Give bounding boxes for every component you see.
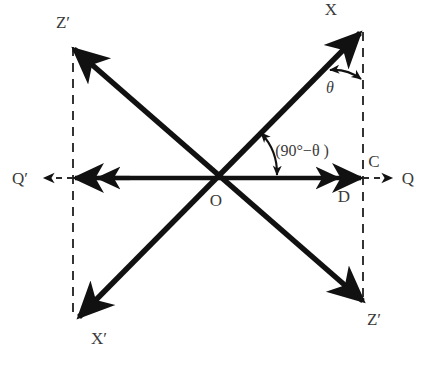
diagram-canvas: Z′ X Z′ X′ Q′ Q C D O θ (90°−θ ) xyxy=(0,0,423,370)
theta-angle-arc xyxy=(330,70,361,79)
label-angle-theta: θ xyxy=(326,79,334,96)
label-angle-complement: (90°−θ ) xyxy=(275,142,329,160)
label-q-prime-left: Q′ xyxy=(12,169,28,188)
label-z-prime-top-left: Z′ xyxy=(56,13,70,32)
axes-rotation-diagram: Z′ X Z′ X′ Q′ Q C D O θ (90°−θ ) xyxy=(0,0,423,370)
label-q-right: Q xyxy=(402,169,414,188)
label-point-c: C xyxy=(368,152,379,171)
label-x-prime-bottom-left: X′ xyxy=(91,329,107,348)
main-axes xyxy=(74,33,363,317)
label-x-top-right: X xyxy=(325,0,337,19)
axis-x-line xyxy=(79,33,360,317)
label-point-d: D xyxy=(338,187,350,206)
label-z-prime-bottom-right: Z′ xyxy=(367,310,381,329)
label-origin: O xyxy=(210,191,222,210)
